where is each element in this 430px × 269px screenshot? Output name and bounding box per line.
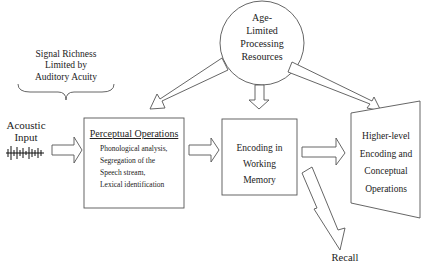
acoustic-input-label: Acoustic Input bbox=[2, 119, 50, 143]
resources-line: Resources bbox=[228, 50, 296, 63]
brace bbox=[18, 84, 114, 100]
arrow-memory-to-recall bbox=[302, 167, 345, 250]
recall-label: Recall bbox=[320, 252, 370, 265]
memory-line: Working bbox=[222, 156, 297, 172]
resources-label: Age- Limited Processing Resources bbox=[228, 11, 296, 63]
arrow-resources-to-memory bbox=[249, 85, 269, 109]
higher-line: Conceptual bbox=[352, 163, 420, 181]
memory-line: Memory bbox=[222, 172, 297, 188]
higher-line: Operations bbox=[352, 181, 420, 199]
resources-line: Processing bbox=[228, 37, 296, 50]
perceptual-item: Lexical identification bbox=[100, 179, 184, 191]
memory-line: Encoding in bbox=[222, 140, 297, 156]
signal-note-line: Limited by bbox=[24, 60, 108, 71]
higher-level-label: Higher-level Encoding and Conceptual Ope… bbox=[352, 128, 420, 198]
waveform-icon bbox=[6, 146, 44, 160]
input-line: Acoustic bbox=[2, 119, 50, 131]
perceptual-item: Phonological analysis, bbox=[100, 143, 184, 155]
arrow-perceptual-to-memory bbox=[189, 138, 219, 162]
perceptual-title: Perceptual Operations bbox=[86, 128, 182, 140]
input-line: Input bbox=[2, 131, 50, 143]
perceptual-item: Segregation of the bbox=[100, 155, 184, 167]
working-memory-label: Encoding in Working Memory bbox=[222, 140, 297, 188]
perceptual-items: Phonological analysis, Segregation of th… bbox=[100, 143, 184, 191]
signal-richness-note: Signal Richness Limited by Auditory Acui… bbox=[24, 49, 108, 83]
higher-line: Encoding and bbox=[352, 146, 420, 164]
signal-note-line: Auditory Acuity bbox=[24, 72, 108, 83]
higher-line: Higher-level bbox=[352, 128, 420, 146]
arrow-input-to-perceptual bbox=[52, 137, 82, 163]
arrow-resources-to-perceptual bbox=[150, 58, 228, 109]
arrow-memory-to-higher bbox=[302, 138, 345, 165]
resources-line: Limited bbox=[228, 24, 296, 37]
perceptual-item: Speech stream, bbox=[100, 167, 184, 179]
arrow-resources-to-higher bbox=[288, 62, 381, 111]
resources-line: Age- bbox=[228, 11, 296, 24]
signal-note-line: Signal Richness bbox=[24, 49, 108, 60]
